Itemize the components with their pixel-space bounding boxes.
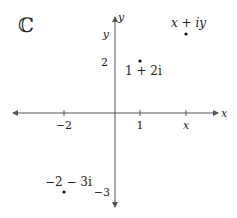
point-marker <box>184 32 187 35</box>
point-label: 1 + 2i <box>125 64 162 78</box>
y-tick-label-neg3: −3 <box>94 186 110 199</box>
point-label: x + iy <box>171 16 206 30</box>
y-axis: y <box>115 11 125 207</box>
complex-set-symbol: ℂ <box>18 13 34 37</box>
complex-plane-diagram: ℂ x y −2 1 x 2 y −3 1 + 2i x + iy <box>0 0 237 218</box>
y-tick-label-y: y <box>102 28 110 41</box>
point-label: −2 − 3i <box>45 175 92 189</box>
point-x-plus-iy: x + iy <box>171 16 206 36</box>
x-axis: x <box>13 107 228 120</box>
y-axis-label: y <box>117 11 125 24</box>
y-tick-label-2: 2 <box>101 56 108 69</box>
point-1-plus-2i: 1 + 2i <box>125 59 162 78</box>
point-marker <box>138 59 141 62</box>
point-neg2-minus-3i: −2 − 3i <box>45 175 92 194</box>
x-tick-label-x: x <box>183 119 190 132</box>
x-tick-label-1: 1 <box>137 119 144 132</box>
point-marker <box>62 190 65 193</box>
x-axis-label: x <box>221 107 228 120</box>
x-tick-label-neg2: −2 <box>56 119 72 132</box>
